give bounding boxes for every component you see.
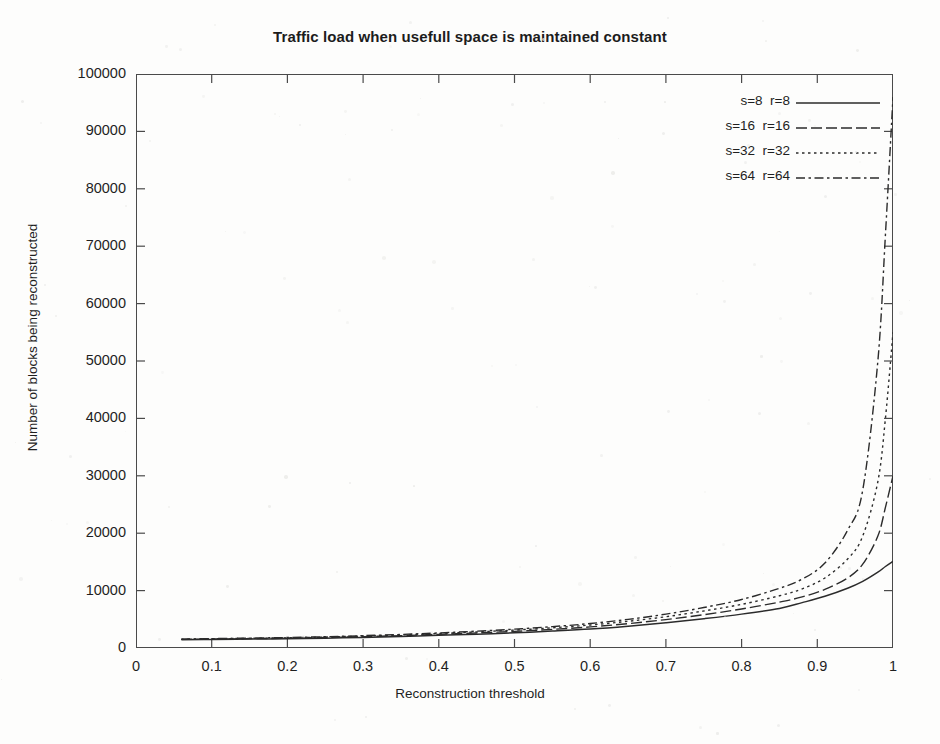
scan-speckle [699,726,702,729]
scan-speckle [125,205,127,207]
scan-speckle [856,49,859,52]
legend-item: s=16 r=16 [648,118,880,143]
legend-item-label: s=32 r=32 [725,143,790,158]
scan-speckle [334,719,336,721]
scan-speckle [929,478,931,480]
scan-speckle [19,577,23,581]
scan-speckle [574,708,576,710]
series-line-2 [181,332,893,639]
series-line-1 [181,476,893,640]
x-axis-label: Reconstruction threshold [0,686,940,701]
y-tick-label: 90000 [16,122,126,138]
scan-speckle [777,724,780,727]
legend-item-label: s=8 r=8 [740,93,790,108]
scan-speckle [125,431,126,432]
scan-speckle [69,455,72,458]
scan-speckle [409,21,412,24]
scan-speckle [667,17,669,19]
x-tick-label: 0.8 [712,658,772,674]
scan-speckle [214,24,216,26]
x-tick-label: 0.4 [409,658,469,674]
legend-line-sample [796,127,880,129]
chart-page: Traffic load when usefull space is maint… [0,0,940,744]
chart-title: Traffic load when usefull space is maint… [0,28,940,45]
legend-item: s=8 r=8 [648,93,880,118]
scan-speckle [51,520,52,521]
legend-item-label: s=16 r=16 [725,118,790,133]
legend-line-sample [796,102,880,104]
scan-speckle [365,716,367,718]
y-tick-label: 0 [16,639,126,655]
scan-speckle [165,45,168,48]
x-tick-label: 0.5 [485,658,545,674]
scan-speckle [716,732,719,735]
x-tick-label: 0 [106,658,166,674]
scan-speckle [909,300,910,301]
scan-speckle [55,315,57,317]
legend-line-sample [796,177,880,179]
y-tick-label: 20000 [16,524,126,540]
x-tick-label: 0.3 [333,658,393,674]
scan-speckle [389,45,392,48]
legend-line-sample [796,152,880,154]
y-tick-label: 100000 [16,65,126,81]
scan-speckle [1,679,2,680]
scan-speckle [15,442,16,443]
scan-speckle [894,193,897,196]
chart-legend: s=8 r=8s=16 r=16s=32 r=32s=64 r=64 [648,93,880,193]
x-tick-label: 0.1 [182,658,242,674]
x-tick-label: 1 [863,658,923,674]
legend-item-label: s=64 r=64 [725,168,790,183]
legend-item: s=32 r=32 [648,143,880,168]
scan-speckle [762,20,764,22]
x-tick-label: 0.7 [636,658,696,674]
scan-speckle [608,704,611,707]
scan-speckle [44,284,46,286]
scan-speckle [21,100,24,103]
x-tick-label: 0.6 [560,658,620,674]
scan-speckle [405,657,408,660]
legend-item: s=64 r=64 [648,168,880,193]
y-tick-label: 10000 [16,582,126,598]
y-axis-label: Number of blocks being reconstructed [25,188,40,488]
x-tick-label: 0.2 [257,658,317,674]
scan-speckle [899,311,903,315]
scan-speckle [179,48,182,51]
x-tick-label: 0.9 [787,658,847,674]
